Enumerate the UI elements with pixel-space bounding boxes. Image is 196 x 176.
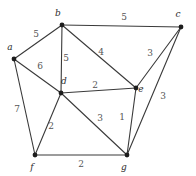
vertex-label-c: c — [175, 9, 180, 19]
edge-c-e-weight: 3 — [147, 48, 153, 58]
vertex-label-a: a — [7, 42, 12, 52]
edge-c-g-weight: 3 — [160, 91, 166, 101]
vertex-c — [179, 25, 184, 30]
edge-d-f-weight: 2 — [48, 121, 54, 131]
vertex-d — [59, 91, 64, 96]
edge-b-e-weight: 4 — [98, 47, 104, 57]
edge-c-e — [136, 27, 181, 88]
edge-d-e — [61, 88, 136, 93]
vertex-a — [12, 57, 17, 62]
vertex-label-b: b — [55, 8, 61, 18]
vertex-label-e: e — [138, 84, 143, 94]
vertex-b — [60, 23, 65, 28]
edge-b-c — [62, 25, 181, 27]
edge-a-f-weight: 7 — [14, 104, 20, 114]
edge-b-c-weight: 5 — [121, 12, 127, 22]
vertex-f — [33, 153, 38, 158]
vertex-label-d: d — [61, 76, 67, 86]
vertex-g — [125, 153, 130, 158]
edge-d-g — [61, 93, 127, 155]
graph-diagram: 5565433272312 abcdefg — [0, 0, 196, 176]
edge-a-d-weight: 6 — [37, 61, 43, 71]
edges-layer — [14, 25, 181, 155]
edge-e-g-weight: 1 — [119, 112, 125, 122]
graph-canvas: 5565433272312 abcdefg — [0, 0, 196, 176]
edge-a-b-weight: 5 — [33, 29, 39, 39]
edge-d-e-weight: 2 — [92, 80, 98, 90]
edge-b-d-weight: 5 — [63, 53, 69, 63]
edge-d-g-weight: 3 — [97, 113, 103, 123]
vertex-label-f: f — [29, 162, 35, 172]
edge-f-g-weight: 2 — [78, 159, 84, 169]
vertex-label-g: g — [121, 162, 127, 172]
